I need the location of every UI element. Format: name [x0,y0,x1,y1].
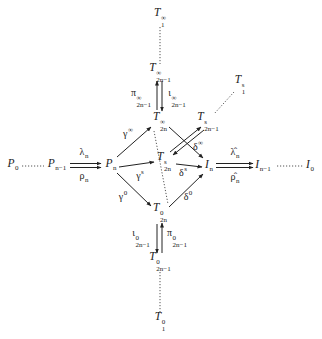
edge-label-rho-hat-n-subscript: n [236,177,240,185]
edge-label-gamma-inf: γ∞ [123,127,133,139]
edge-label-delta-0: δ0 [184,190,193,202]
edge-label-delta-inf-superscript: ∞ [198,139,203,147]
edge-label-gamma-s: γs [136,169,144,181]
node-t1-inf-symbol: T [154,6,160,18]
node-t2n1-inf: T∞2n−1 [149,62,170,83]
node-i0-subscript: 0 [310,165,314,173]
node-t2n-0-symbol: T [153,201,159,213]
node-t2n1-s-symbol: T [197,110,203,122]
node-t2n-0: T02n [153,202,167,223]
edge-label-rho-n-symbol: ρ [80,170,85,181]
edge-label-gamma-s-symbol: γ [136,170,140,181]
edge-label-iota-inf-subscript: 2n−1 [171,102,185,109]
edge-label-pi-inf-symbol: π [131,87,136,98]
edge-label-delta-s-superscript: s [184,165,187,173]
node-t2n-s-symbol: T [157,150,163,162]
node-t1-inf: T∞1 [154,7,166,28]
edge-label-lambda-hat-n-subscript: n [236,152,240,160]
node-pn-subscript: n [113,164,117,172]
edge-label-pi-inf-subscript: 2n−1 [137,102,151,109]
edge-label-iota-0-subscript: 2n−1 [135,242,149,249]
node-in1-subscript: n−1 [260,165,271,173]
commutative-diagram: T∞1T∞2n−1T∞2nTs1Ts2n−1Ts2nP0Pn−1PnInIn−1… [0,0,322,339]
node-t2n1-s-subscript: 2n−1 [204,126,218,133]
node-in-subscript: n [209,165,213,173]
edge-label-delta-0-superscript: 0 [189,189,193,197]
edge-label-delta-0-symbol: δ [184,191,189,202]
node-t2n1-inf-symbol: T [149,61,155,73]
node-t2n-inf-subscript: 2n [160,126,167,133]
node-p0-subscript: 0 [15,164,19,172]
edge-label-rho-n: ρn [80,171,89,184]
node-t1-s: Ts1 [235,74,245,95]
edge-label-rho-hat-n-symbol: ρ̂ [231,171,236,182]
node-t2n-inf: T∞2n [153,111,167,132]
edge-label-gamma-inf-symbol: γ [123,128,127,139]
node-t2n1-0: T02n−1 [149,251,170,272]
edge-label-lambda-n-subscript: n [85,152,89,160]
node-t2n1-inf-subscript: 2n−1 [156,77,170,84]
edge-label-pi-0-subscript: 2n−1 [173,242,187,249]
node-t2n-inf-symbol: T [153,110,159,122]
node-t2n1-0-symbol: T [149,250,155,262]
edge-label-pi-0: π02n−1 [167,228,187,248]
edge-label-gamma-0-symbol: γ [119,191,123,202]
node-t1-inf-subscript: 1 [161,22,166,29]
node-t1-0: T01 [155,311,165,332]
edge-label-pi-inf: π∞2n−1 [131,88,151,108]
edge-label-delta-inf: δ∞ [193,140,203,152]
edge-label-delta-inf-symbol: δ [193,141,198,152]
node-pn1-symbol: P [48,157,55,169]
node-t2n1-0-subscript: 2n−1 [156,266,170,273]
node-in1: In−1 [255,159,270,173]
node-t1-s-symbol: T [235,73,241,85]
node-pn1: Pn−1 [48,158,66,172]
edge-label-gamma-s-superscript: s [141,168,144,176]
node-p0-symbol: P [7,157,14,169]
edge-label-pi-0-symbol: π [167,227,172,238]
node-t2n-s: Ts2n [157,151,171,172]
edge-label-rho-n-subscript: n [85,176,89,184]
node-pn1-subscript: n−1 [55,164,66,172]
node-in: In [205,159,213,173]
node-i0: I0 [306,159,314,173]
edge-label-gamma-inf-superscript: ∞ [128,126,133,134]
node-t1-0-symbol: T [155,310,161,322]
edge-label-lambda-n: λn [80,147,89,160]
edge-label-delta-s: δs [179,166,187,178]
node-t1-0-subscript: 1 [162,326,166,333]
edge-label-rho-hat-n: ρ̂n [231,172,240,185]
edge-label-iota-0: ι02n−1 [132,228,150,248]
edge-label-gamma-0-superscript: 0 [124,189,128,197]
node-t2n-0-subscript: 2n [160,217,167,224]
node-pn: Pn [105,158,116,172]
edge-label-gamma-0: γ0 [119,190,127,202]
edge-label-lambda-hat-n: λ̂n [231,147,240,160]
node-t2n1-s: Ts2n−1 [197,111,218,132]
node-t2n-s-subscript: 2n [164,166,171,173]
edge-label-iota-inf: ι∞2n−1 [168,88,186,108]
node-p0: P0 [7,158,18,172]
node-pn-symbol: P [105,157,112,169]
node-t1-s-subscript: 1 [242,89,246,96]
